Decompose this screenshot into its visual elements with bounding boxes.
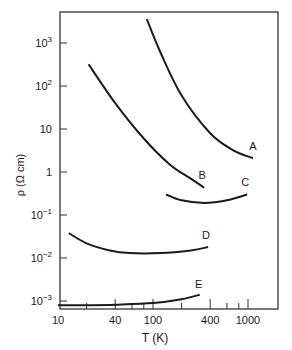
y-tick-label: 10 bbox=[40, 123, 52, 135]
curve-label-b: B bbox=[198, 169, 205, 181]
curve-label-d: D bbox=[202, 229, 210, 241]
curve-e bbox=[58, 295, 200, 306]
y-tick-label: 10−2 bbox=[31, 250, 53, 264]
plot-frame bbox=[60, 12, 278, 309]
x-tick-label: 400 bbox=[201, 314, 219, 326]
x-tick-label: 10 bbox=[52, 314, 64, 326]
y-tick-label: 1 bbox=[46, 166, 52, 178]
plot-border bbox=[60, 12, 278, 309]
resistivity-vs-temperature-chart: 10310210110−110−210−3 10401004001000 ABC… bbox=[0, 0, 292, 350]
x-tick-label: 1000 bbox=[236, 314, 260, 326]
curve-label-e: E bbox=[195, 278, 202, 290]
y-tick-label: 103 bbox=[35, 35, 52, 49]
y-tick-label: 102 bbox=[35, 78, 52, 92]
curve-labels: ABCDE bbox=[195, 140, 257, 290]
curve-label-a: A bbox=[249, 140, 257, 152]
curve-b bbox=[89, 64, 205, 188]
curve-a bbox=[147, 19, 253, 158]
y-tick-label: 10−1 bbox=[31, 207, 53, 221]
curve-label-c: C bbox=[241, 176, 249, 188]
curve-c bbox=[166, 195, 247, 204]
y-tick-label: 10−3 bbox=[31, 293, 53, 307]
data-curves bbox=[58, 19, 253, 305]
x-axis-label: T (K) bbox=[142, 331, 168, 345]
curve-d bbox=[69, 233, 208, 253]
chart-canvas: 10310210110−110−210−3 10401004001000 ABC… bbox=[0, 0, 292, 350]
y-axis-label: ρ (Ω cm) bbox=[14, 154, 26, 197]
x-tick-label: 40 bbox=[109, 314, 121, 326]
y-axis-ticks: 10310210110−110−210−3 bbox=[31, 35, 67, 307]
x-tick-label: 100 bbox=[144, 314, 162, 326]
